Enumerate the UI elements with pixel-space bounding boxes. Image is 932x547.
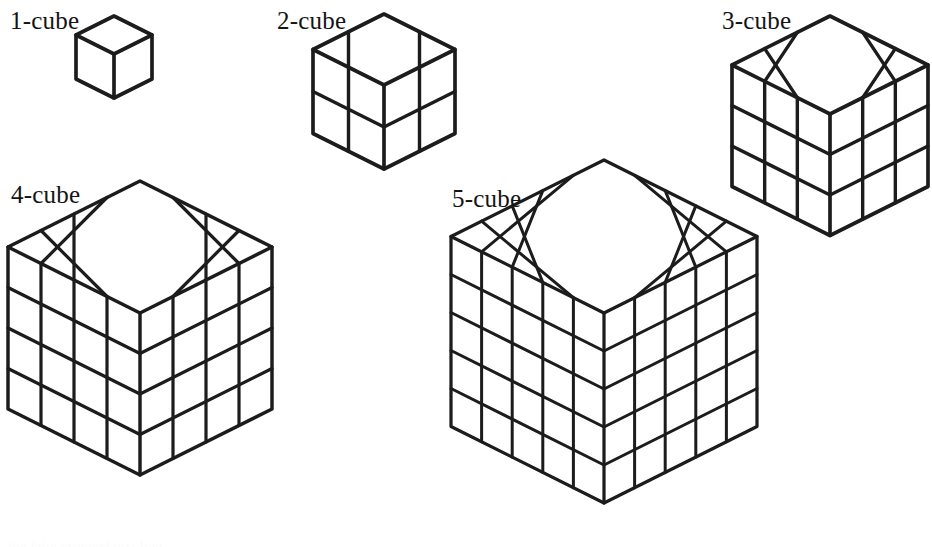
- cube-label-2: 2-cube: [277, 8, 346, 33]
- cube-label-1: 1-cube: [10, 8, 79, 33]
- cube-2: [313, 14, 455, 169]
- cube-4: [8, 181, 272, 475]
- cube-3: [732, 16, 928, 236]
- cube-label-3: 3-cube: [722, 8, 791, 33]
- cube-label-5: 5-cube: [452, 186, 521, 211]
- cube-1: [76, 16, 152, 98]
- cube-label-4: 4-cube: [11, 182, 80, 207]
- bottom-text-fragment: the faint cropped text line: [8, 538, 468, 547]
